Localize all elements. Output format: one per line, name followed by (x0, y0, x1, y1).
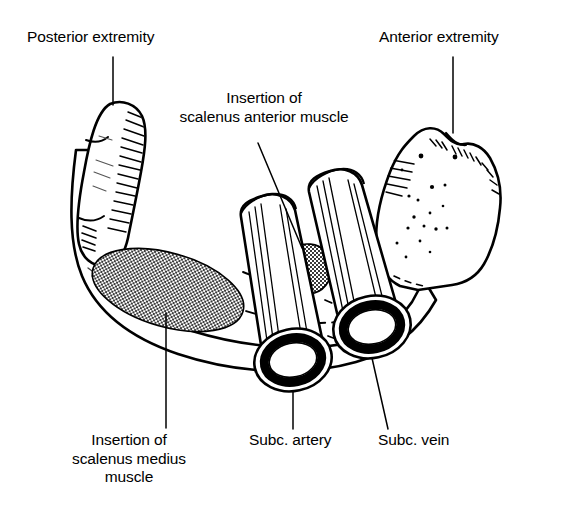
label-subclavian-vein: Subc. vein (378, 431, 449, 450)
label-subclavian-artery: Subc. artery (249, 431, 331, 450)
label-scalenus-anterior-line1: Insertion of (179, 89, 348, 108)
label-subclavian-artery-text: Subc. artery (249, 431, 331, 448)
label-posterior-extremity-text: Posterior extremity (27, 28, 154, 45)
label-scalenus-medius-line2: scalenus medius (72, 450, 186, 469)
label-subclavian-vein-text: Subc. vein (378, 431, 449, 448)
label-anterior-extremity: Anterior extremity (379, 28, 499, 47)
label-scalenus-medius-line3: muscle (72, 468, 186, 487)
label-scalenus-medius-line1: Insertion of (72, 431, 186, 450)
anterior-extremity-shape (376, 128, 500, 290)
leader-subclavian-vein (372, 358, 388, 429)
label-posterior-extremity: Posterior extremity (27, 28, 154, 47)
label-scalenus-medius-insertion: Insertion of scalenus medius muscle (72, 431, 186, 487)
label-anterior-extremity-text: Anterior extremity (379, 28, 499, 45)
label-scalenus-anterior-insertion: Insertion of scalenus anterior muscle (179, 89, 348, 126)
label-scalenus-anterior-line2: scalenus anterior muscle (179, 108, 348, 127)
